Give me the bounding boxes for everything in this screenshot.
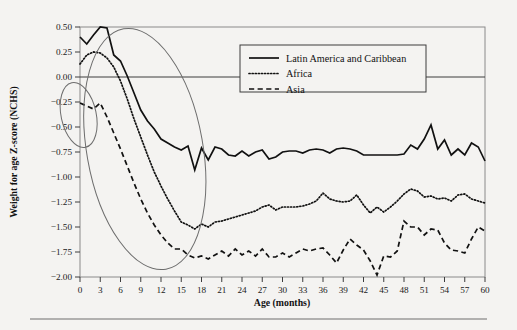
x-tick-label: 39 [339, 285, 349, 295]
y-tick-label: −0.25 [51, 97, 73, 107]
y-tick-label: 0.00 [56, 72, 72, 82]
x-axis-title: Age (months) [254, 297, 310, 309]
x-tick-label: 60 [480, 285, 490, 295]
x-tick-label: 9 [138, 285, 143, 295]
y-tick-label: 0.25 [56, 47, 72, 57]
legend: Latin America and CaribbeanAfricaAsia [240, 45, 426, 95]
y-tick-label: −0.75 [51, 147, 73, 157]
x-tick-label: 45 [379, 285, 389, 295]
y-tick-label: −0.50 [51, 122, 73, 132]
x-tick-label: 57 [460, 285, 470, 295]
x-tick-label: 15 [177, 285, 187, 295]
figure-container: 0.500.250.00−0.25−0.50−0.75−1.00−1.25−1.… [0, 0, 517, 330]
x-tick-label: 6 [118, 285, 123, 295]
x-tick-label: 21 [217, 285, 227, 295]
x-tick-label: 27 [258, 285, 268, 295]
legend-label: Asia [286, 84, 305, 95]
x-tick-label: 54 [440, 285, 450, 295]
x-tick-label: 24 [237, 285, 247, 295]
x-tick-label: 18 [197, 285, 207, 295]
x-tick-label: 3 [98, 285, 103, 295]
legend-label: Africa [286, 68, 312, 79]
weight-for-age-zscore-line-chart: 0.500.250.00−0.25−0.50−0.75−1.00−1.25−1.… [0, 0, 517, 330]
x-tick-label: 30 [278, 285, 288, 295]
y-tick-label: −1.00 [51, 172, 73, 182]
x-tick-label: 33 [298, 285, 308, 295]
legend-label: Latin America and Caribbean [286, 53, 406, 64]
y-tick-label: −2.00 [51, 272, 73, 282]
y-tick-label: −1.50 [51, 222, 73, 232]
y-tick-label: −1.25 [51, 197, 73, 207]
x-tick-label: 42 [359, 285, 369, 295]
x-tick-label: 12 [156, 285, 166, 295]
x-tick-label: 48 [399, 285, 409, 295]
x-tick-label: 0 [78, 285, 83, 295]
y-tick-label: −1.75 [51, 247, 73, 257]
y-tick-label: 0.50 [56, 22, 72, 32]
y-axis-title: Weight for age Z-score (NCHS) [8, 86, 20, 217]
x-tick-label: 51 [420, 285, 430, 295]
x-tick-label: 36 [318, 285, 328, 295]
